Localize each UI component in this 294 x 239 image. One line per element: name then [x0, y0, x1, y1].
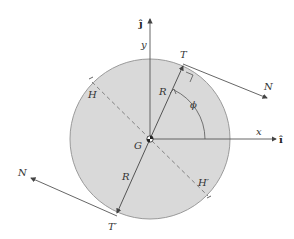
x-label: x — [256, 126, 262, 137]
j-hat-label: ĵ — [138, 18, 143, 29]
H-label: H — [87, 89, 97, 100]
N-top-label: N — [263, 81, 274, 92]
H-tick — [89, 77, 93, 79]
disk-diagram: ĵ y T N H R ϕ G x î H′ R N T′ — [0, 0, 294, 239]
y-label: y — [140, 39, 147, 50]
i-hat-label: î — [279, 134, 283, 145]
H-prime-label: H′ — [197, 177, 210, 188]
T-label: T — [180, 49, 188, 60]
N-bottom-label: N — [17, 167, 28, 178]
R-bottom-label: R — [121, 171, 130, 182]
phi-label: ϕ — [190, 99, 197, 110]
T-prime-label: T′ — [108, 221, 118, 232]
Hprime-tick — [207, 196, 211, 198]
R-top-label: R — [158, 86, 167, 97]
G-label: G — [134, 140, 142, 151]
